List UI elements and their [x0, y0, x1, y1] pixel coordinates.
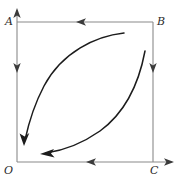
lower-curve-arrowhead — [40, 149, 55, 158]
vertex-label-B: B — [157, 16, 165, 27]
vertex-label-A: A — [5, 16, 13, 27]
vertex-label-O: O — [4, 165, 13, 176]
lower-curve — [46, 51, 145, 153]
upper-curve-arrowhead — [20, 133, 30, 146]
vertex-label-C: C — [150, 165, 158, 176]
cycle-diagram: A B O C — [0, 0, 178, 180]
diagram-canvas — [0, 0, 178, 180]
